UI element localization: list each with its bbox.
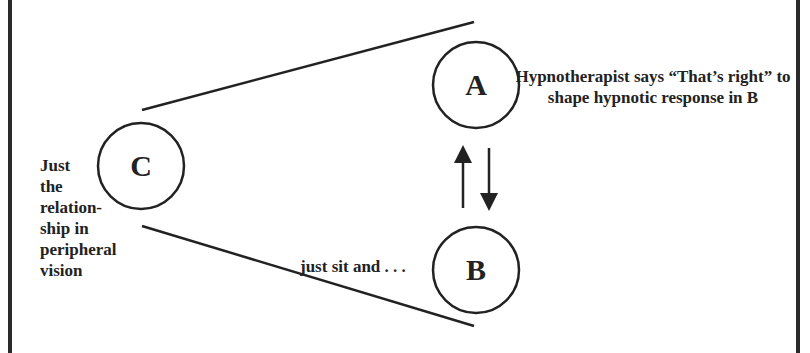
annotation-c-line: peripheral xyxy=(40,239,140,260)
arrow-down-icon xyxy=(480,148,498,211)
annotation-c-line: ship in xyxy=(40,218,140,239)
view-line-top xyxy=(142,22,474,110)
annotation-b: just sit and . . . xyxy=(300,256,406,277)
annotation-c-line: Just xyxy=(40,155,140,176)
node-b-label: B xyxy=(433,253,519,287)
annotation-c-line: vision xyxy=(40,260,140,281)
annotation-c: Just the relation- ship in peripheral vi… xyxy=(40,155,140,281)
annotation-c-line: the xyxy=(40,176,140,197)
arrow-up-icon xyxy=(454,145,472,208)
annotation-c-line: relation- xyxy=(40,197,140,218)
node-a-label: A xyxy=(433,68,519,102)
annotation-a: Hypnotherapist says “That’s right” to sh… xyxy=(513,66,793,108)
